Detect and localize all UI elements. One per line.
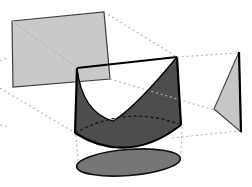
side-projection-triangle: [214, 52, 241, 132]
ray-back-bottom-left: [0, 88, 75, 133]
diagram-stage: [0, 0, 252, 187]
diagram-svg: [0, 0, 252, 187]
bottom-shadow-ellipse: [76, 145, 182, 179]
ray-stub-left-top: [0, 57, 9, 61]
ray-down-left: [76, 135, 78, 161]
ray-stub-left-bottom: [0, 125, 9, 127]
back-projection-plane: [12, 12, 110, 87]
ray-down-right: [181, 127, 182, 154]
ray-back-top-right: [104, 12, 177, 57]
ray-side-top: [177, 53, 239, 57]
